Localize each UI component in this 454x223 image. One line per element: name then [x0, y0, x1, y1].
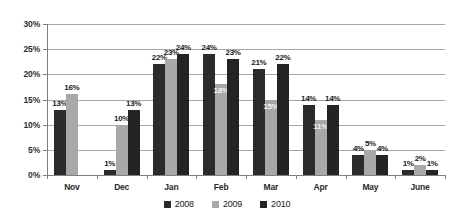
bar-group: 1%2%1%: [395, 24, 445, 175]
bar-slot: 1%: [402, 24, 414, 175]
bar[interactable]: 14%: [327, 105, 339, 175]
x-axis-tick-label: May: [346, 177, 396, 193]
bar-group: 1%10%13%: [97, 24, 147, 175]
x-axis-tick-label: Nov: [47, 177, 97, 193]
bar[interactable]: 14%: [303, 105, 315, 175]
x-axis-tick-label: June: [395, 177, 445, 193]
legend-item[interactable]: 2010: [260, 199, 290, 209]
bar-slot: 15%: [265, 24, 277, 175]
bar[interactable]: 4%: [376, 155, 388, 175]
bar-value-label: 23%: [226, 48, 241, 57]
bar[interactable]: 22%: [153, 64, 165, 175]
bar-slot: 16%: [66, 24, 78, 175]
legend-swatch-icon: [260, 201, 267, 208]
bar-group: 13%16%: [47, 24, 97, 175]
bar[interactable]: 1%: [426, 170, 438, 175]
bar-slot: 1%: [104, 24, 116, 175]
bar[interactable]: 24%: [203, 54, 215, 175]
legend-label: 2008: [175, 199, 194, 209]
bar-slot: 13%: [54, 24, 66, 175]
legend-label: 2010: [271, 199, 290, 209]
bar[interactable]: 23%: [165, 59, 177, 175]
y-axis-tick-label: 0%: [4, 170, 40, 180]
bar-value-label: 1%: [104, 159, 115, 168]
bar-group: 14%11%14%: [296, 24, 346, 175]
x-axis-tick-label: Jan: [147, 177, 197, 193]
bar-value-label: 4%: [377, 144, 388, 153]
y-axis-tick-label: 30%: [4, 19, 40, 29]
bar[interactable]: 10%: [116, 125, 128, 175]
x-axis-labels: NovDecJanFebMarAprMayJune: [47, 177, 445, 193]
bar-slot: 24%: [203, 24, 215, 175]
legend-swatch-icon: [164, 201, 171, 208]
x-axis-tick-label: Apr: [296, 177, 346, 193]
bar-groups: 13%16%1%10%13%22%23%24%24%18%23%21%15%22…: [47, 24, 445, 175]
bar-slot: 1%: [426, 24, 438, 175]
bar-chart: 30% 25% 20% 15% 10% 5% 0% 13%16%1%10%13%…: [0, 0, 454, 223]
y-axis-tick-label: 10%: [4, 120, 40, 130]
bar-slot: 14%: [327, 24, 339, 175]
bar[interactable]: 13%: [128, 110, 140, 175]
bar-slot: 22%: [153, 24, 165, 175]
bar-value-label: 1%: [427, 159, 438, 168]
legend-label: 2009: [223, 199, 242, 209]
bar[interactable]: 23%: [227, 59, 239, 175]
legend-item[interactable]: 2008: [164, 199, 194, 209]
bar-slot: [78, 24, 90, 175]
bar-slot: 5%: [364, 24, 376, 175]
bar-slot: 13%: [128, 24, 140, 175]
bar[interactable]: 18%: [215, 84, 227, 175]
y-axis-tick-label: 15%: [4, 95, 40, 105]
legend-item[interactable]: 2009: [212, 199, 242, 209]
bar-slot: 14%: [303, 24, 315, 175]
bar-slot: 18%: [215, 24, 227, 175]
bar-slot: 21%: [253, 24, 265, 175]
bar-value-label: 1%: [403, 159, 414, 168]
chart-legend: 200820092010: [0, 199, 454, 209]
bar[interactable]: 2%: [414, 165, 426, 175]
x-axis-tick-label: Feb: [196, 177, 246, 193]
y-axis-tick-label: 20%: [4, 69, 40, 79]
bar-slot: 4%: [376, 24, 388, 175]
bar-group: 4%5%4%: [346, 24, 396, 175]
y-axis-tick-label: 25%: [4, 44, 40, 54]
bar-value-label: 14%: [325, 94, 340, 103]
bar[interactable]: 5%: [364, 150, 376, 175]
bar-value-label: 22%: [275, 53, 290, 62]
y-axis-tick-label: 5%: [4, 145, 40, 155]
bar-slot: 2%: [414, 24, 426, 175]
bar-group: 21%15%22%: [246, 24, 296, 175]
bar[interactable]: 21%: [253, 69, 265, 175]
bar[interactable]: 1%: [402, 170, 414, 175]
bar-value-label: 4%: [353, 144, 364, 153]
bar[interactable]: 16%: [66, 94, 78, 175]
bar-value-label: 5%: [365, 139, 376, 148]
bar-slot: 24%: [177, 24, 189, 175]
bar-value-label: 13%: [126, 99, 141, 108]
x-axis-tick-label: Dec: [97, 177, 147, 193]
bar[interactable]: 13%: [54, 110, 66, 175]
bar[interactable]: 15%: [265, 100, 277, 176]
bar[interactable]: 4%: [352, 155, 364, 175]
bar-slot: 4%: [352, 24, 364, 175]
bar[interactable]: 11%: [315, 120, 327, 175]
x-axis-tick-label: Mar: [246, 177, 296, 193]
bar-group: 22%23%24%: [147, 24, 197, 175]
legend-swatch-icon: [212, 201, 219, 208]
bar[interactable]: 22%: [277, 64, 289, 175]
bar[interactable]: 1%: [104, 170, 116, 175]
bar-slot: 23%: [227, 24, 239, 175]
bar-slot: 22%: [277, 24, 289, 175]
x-tick-mark: [445, 175, 446, 179]
bar-value-label: 2%: [415, 154, 426, 163]
bar[interactable]: 24%: [177, 54, 189, 175]
bar-group: 24%18%23%: [196, 24, 246, 175]
bar-value-label: 24%: [176, 43, 191, 52]
